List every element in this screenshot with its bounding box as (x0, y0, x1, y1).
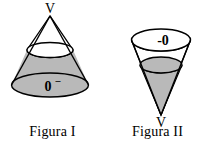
figure-two-panel: -0 V Figura II (105, 0, 210, 150)
figure-one-base-label-superscript: – (55, 75, 62, 86)
figure-one-base-label: 0 (45, 79, 52, 94)
figure-board: V 0 – Figura I -0 V Figura II (0, 0, 210, 150)
figure-one-panel: V 0 – Figura I (0, 0, 105, 150)
figure-one-caption: Figura I (0, 124, 105, 139)
figure-two-top-label: -0 (157, 33, 169, 48)
figure-two-inner-ellipse (140, 57, 182, 73)
figure-two-caption: Figura II (105, 124, 210, 139)
figure-one-vertex-label: V (45, 1, 55, 16)
